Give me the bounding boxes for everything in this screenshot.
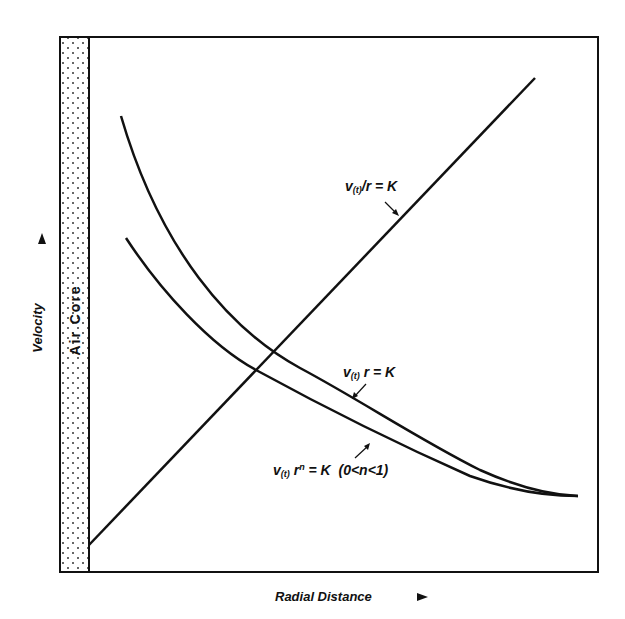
real-vortex-label: v(t) rn = K (0<n<1) [273,462,389,479]
real-vortex-curve [126,238,578,496]
x-axis-label: Radial Distance [275,589,372,604]
y-axis-label: Velocity [30,303,45,353]
air-core-label: Air Core [67,284,83,355]
free-vortex-label: v(t) r = K [343,364,396,381]
vortex-velocity-diagram: Air Core v(t)/r = K v(t) r = K v(t) rn =… [0,0,625,619]
y-axis-arrow-icon [38,233,46,244]
x-axis-arrow-icon [417,593,428,601]
forced-vortex-label: v(t)/r = K [345,178,398,195]
free-vortex-pointer-arrow [355,384,366,396]
